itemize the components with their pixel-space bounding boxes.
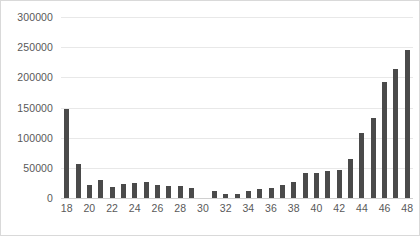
bar (303, 173, 308, 198)
bar (291, 182, 296, 198)
plot-area (61, 17, 413, 198)
bar (87, 185, 92, 198)
y-tick-label: 250000 (17, 41, 53, 53)
bar (98, 180, 103, 198)
bar (325, 171, 330, 198)
bar (223, 194, 228, 198)
y-tick-label: 300000 (17, 11, 53, 23)
y-tick-label: 0 (47, 192, 53, 204)
x-tick-label: 18 (61, 202, 73, 214)
bar (269, 188, 274, 198)
y-tick-label: 100000 (17, 132, 53, 144)
x-tick-label: 36 (265, 202, 277, 214)
x-tick-label: 24 (129, 202, 141, 214)
bar (280, 185, 285, 198)
y-tick-label: 200000 (17, 71, 53, 83)
bars-series (61, 17, 413, 198)
x-tick-label: 42 (333, 202, 345, 214)
bar (314, 173, 319, 198)
bar (76, 164, 81, 198)
bar (348, 159, 353, 198)
bar (132, 183, 137, 198)
x-tick-label: 34 (242, 202, 254, 214)
bar (405, 50, 410, 198)
bar (359, 133, 364, 198)
y-tick-label: 50000 (23, 162, 53, 174)
x-tick-label: 46 (379, 202, 391, 214)
bar (178, 186, 183, 198)
x-tick-label: 38 (288, 202, 300, 214)
bar (257, 189, 262, 198)
bar (235, 194, 240, 198)
bar (144, 182, 149, 198)
bar (155, 185, 160, 198)
x-tick-label: 32 (220, 202, 232, 214)
bar (212, 191, 217, 198)
x-axis: 18202224262830323436384042444648 (61, 200, 413, 220)
bar (337, 170, 342, 198)
bar (166, 186, 171, 198)
x-tick-label: 30 (197, 202, 209, 214)
bar (393, 69, 398, 198)
bar (246, 191, 251, 198)
x-tick-label: 22 (106, 202, 118, 214)
x-tick-label: 40 (311, 202, 323, 214)
x-tick-label: 20 (83, 202, 95, 214)
bar (64, 109, 69, 198)
bar (121, 184, 126, 198)
x-tick-label: 44 (356, 202, 368, 214)
bar-chart: 050000100000150000200000250000300000 182… (0, 0, 420, 236)
y-tick-label: 150000 (17, 102, 53, 114)
bar (110, 187, 115, 198)
x-tick-label: 28 (174, 202, 186, 214)
x-tick-label: 26 (152, 202, 164, 214)
gridline (61, 198, 413, 199)
bar (371, 118, 376, 198)
bar (382, 82, 387, 198)
x-tick-label: 48 (401, 202, 413, 214)
y-axis: 050000100000150000200000250000300000 (1, 1, 57, 236)
bar (189, 188, 194, 198)
